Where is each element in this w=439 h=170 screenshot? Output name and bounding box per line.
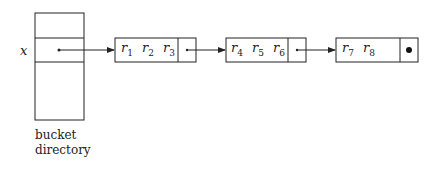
record: r2	[142, 40, 154, 58]
bucket-2: r4 r5 r6	[226, 38, 306, 62]
record: r1	[121, 40, 133, 58]
record: r4	[231, 40, 243, 58]
bucket-3: r7 r8	[336, 38, 418, 62]
directory-caption: bucket directory	[35, 128, 91, 158]
record: r6	[273, 40, 285, 58]
caption-line-2: directory	[35, 143, 91, 158]
record: r8	[363, 40, 375, 58]
bucket-directory	[35, 13, 84, 120]
caption-line-1: bucket	[35, 128, 91, 143]
null-pointer-icon	[406, 47, 412, 53]
directory-row-label: x	[20, 43, 28, 58]
bucket-1: r1 r2 r3	[115, 38, 196, 62]
record: r7	[342, 40, 354, 58]
record: r5	[252, 40, 264, 58]
record: r3	[163, 40, 175, 58]
